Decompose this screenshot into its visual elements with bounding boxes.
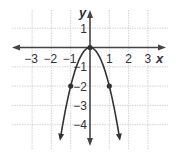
y-tick-label: −4 [73, 118, 87, 132]
parabola-graph: −3−2−11231−1−2−3−4 x y [0, 0, 176, 156]
x-tick-label: 1 [106, 52, 113, 66]
x-tick-label: −2 [44, 52, 58, 66]
curve-right-arrow-icon [116, 133, 122, 140]
point-marker [68, 84, 73, 89]
x-axis-right-arrow-icon [158, 45, 166, 51]
x-tick-label: −3 [24, 52, 38, 66]
x-axis-left-arrow-icon [12, 45, 20, 51]
curve-left-arrow-icon [58, 133, 64, 140]
x-tick-label: 3 [145, 52, 152, 66]
y-axis-up-arrow-icon [87, 10, 93, 18]
axes [12, 10, 166, 146]
point-marker [107, 84, 112, 89]
tick-labels: −3−2−11231−1−2−3−4 [24, 22, 151, 133]
x-axis-label: x [155, 51, 164, 66]
y-axis-label: y [78, 5, 87, 20]
x-tick-label: 2 [125, 52, 132, 66]
point-marker [87, 45, 92, 50]
y-tick-label: 1 [80, 22, 87, 36]
y-tick-label: −3 [73, 99, 87, 113]
y-axis-down-arrow-icon [87, 138, 93, 146]
y-tick-label: −2 [73, 80, 87, 94]
